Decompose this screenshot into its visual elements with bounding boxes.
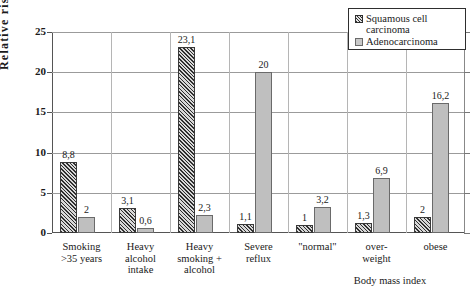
y-axis-tick-right [464, 72, 470, 73]
y-axis-tick-label: 25 [14, 26, 46, 37]
category-label-line: weight [341, 253, 412, 265]
y-axis-tick-label: 15 [14, 106, 46, 117]
bar-squamous [414, 217, 431, 233]
category-label-line: reflux [223, 253, 294, 265]
y-axis-title: Relative risk [0, 0, 12, 70]
legend-item-squamous: Squamous cell carcinoma [355, 13, 465, 35]
bar-value-label: 23,1 [171, 35, 202, 45]
relative-risk-bar-chart: Relative risk 8,823,10,623,12,31,12013,2… [0, 0, 476, 305]
legend-label-squamous: Squamous cell carcinoma [366, 13, 428, 35]
bar-squamous [355, 223, 372, 233]
y-axis-tick [47, 193, 52, 194]
y-axis-tick-label: 0 [14, 227, 46, 238]
y-axis-tick [47, 153, 52, 154]
y-axis-tick-right [464, 153, 470, 154]
bar-adenocarcinoma [196, 215, 213, 233]
legend-item-adenocarcinoma: Adenocarcinoma [355, 36, 465, 47]
category-separator [170, 32, 171, 233]
bar-adenocarcinoma [78, 217, 95, 233]
y-axis-tick-right [464, 233, 470, 234]
bar-value-label: 3,1 [112, 196, 143, 206]
category-separator [347, 32, 348, 233]
bar-squamous [237, 224, 254, 233]
bar-value-label: 6,9 [366, 166, 397, 176]
bar-squamous [60, 162, 77, 233]
bar-value-label: 2,3 [189, 203, 220, 213]
category-separator [288, 32, 289, 233]
y-axis-tick-label: 5 [14, 187, 46, 198]
legend-label-adenocarcinoma: Adenocarcinoma [366, 36, 438, 47]
chart-legend: Squamous cell carcinoma Adenocarcinoma [348, 8, 466, 50]
bar-adenocarcinoma [314, 207, 331, 233]
bar-value-label: 20 [248, 60, 279, 70]
category-label-line: obese [400, 241, 471, 253]
bar-value-label: 0,6 [130, 216, 161, 226]
legend-swatch-adenocarcinoma-icon [355, 38, 363, 46]
bar-value-label: 16,2 [425, 91, 456, 101]
y-axis-tick-right [464, 112, 470, 113]
category-label: obese [400, 241, 471, 253]
plot-area: 8,823,10,623,12,31,12013,21,36,9216,2 [52, 32, 465, 233]
bar-value-label: 3,2 [307, 195, 338, 205]
y-axis-tick [47, 112, 52, 113]
legend-label-squamous-line2: carcinoma [366, 24, 410, 35]
bar-adenocarcinoma [255, 72, 272, 233]
figure-caption [0, 297, 476, 305]
category-separator [229, 32, 230, 233]
legend-label-squamous-line1: Squamous cell [366, 13, 428, 24]
legend-swatch-squamous-icon [355, 15, 363, 23]
y-axis-tick-label: 10 [14, 147, 46, 158]
bar-value-label: 8,8 [53, 150, 84, 160]
bar-value-label: 2 [71, 205, 102, 215]
bar-adenocarcinoma [373, 178, 390, 233]
bar-adenocarcinoma [432, 103, 449, 233]
bar-squamous [296, 225, 313, 233]
y-axis-tick-right [464, 193, 470, 194]
y-axis-tick [47, 233, 52, 234]
bar-adenocarcinoma [137, 228, 154, 233]
category-separator [406, 32, 407, 233]
bmi-group-annotation: Body mass index [315, 275, 465, 286]
category-label-line: alcohol [164, 264, 235, 276]
y-axis-tick [47, 72, 52, 73]
y-axis-tick [47, 32, 52, 33]
y-axis-tick-label: 20 [14, 66, 46, 77]
